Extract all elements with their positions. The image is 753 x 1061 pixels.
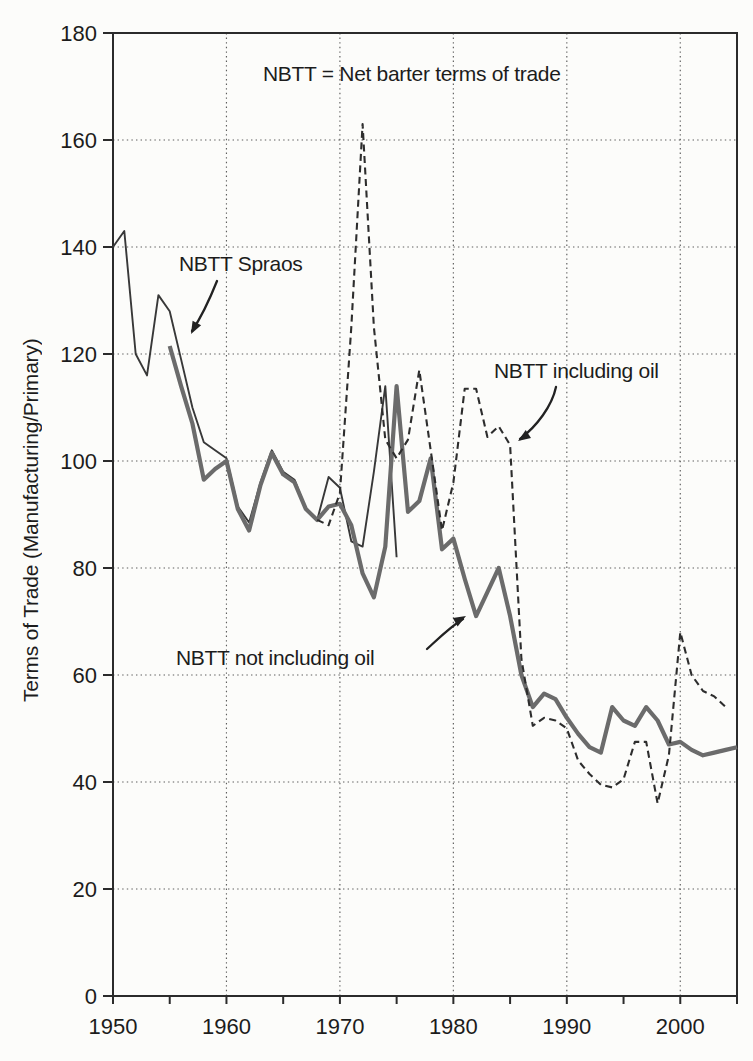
y-tick-label: 80 xyxy=(73,556,97,581)
y-tick-label: 160 xyxy=(60,128,97,153)
figure-page: 0204060801001201401601801950196019701980… xyxy=(0,0,753,1061)
x-tick-label: 1960 xyxy=(202,1014,251,1039)
series-label-spraos: NBTT Spraos xyxy=(179,252,303,276)
arrow-spraos-head xyxy=(191,321,201,334)
y-tick-label: 0 xyxy=(85,984,97,1009)
y-tick-label: 60 xyxy=(73,663,97,688)
x-tick-label: 1990 xyxy=(542,1014,591,1039)
series-line-2-nbtt-including-oil xyxy=(317,124,726,803)
series-label-including-oil: NBTT including oil xyxy=(494,359,659,383)
chart-plot: 0204060801001201401601801950196019701980… xyxy=(0,0,753,1061)
chart-title-annotation: NBTT = Net barter terms of trade xyxy=(263,62,561,86)
y-tick-label: 100 xyxy=(60,449,97,474)
y-tick-label: 20 xyxy=(73,877,97,902)
x-tick-label: 1950 xyxy=(89,1014,138,1039)
series-label-not-including-oil: NBTT not including oil xyxy=(176,646,374,670)
series-line-1-nbtt-not-including-oil xyxy=(170,346,737,755)
y-axis-title: Terms of Trade (Manufacturing/Primary) xyxy=(14,300,48,740)
y-tick-label: 40 xyxy=(73,770,97,795)
y-tick-label: 180 xyxy=(60,21,97,46)
plot-frame xyxy=(113,33,737,996)
y-tick-label: 140 xyxy=(60,235,97,260)
x-tick-label: 2000 xyxy=(656,1014,705,1039)
x-tick-label: 1980 xyxy=(429,1014,478,1039)
y-tick-label: 120 xyxy=(60,342,97,367)
x-tick-label: 1970 xyxy=(315,1014,364,1039)
